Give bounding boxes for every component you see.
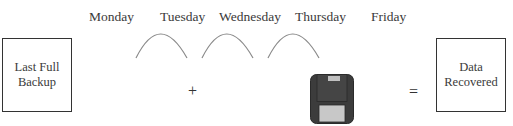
data-recovered-box: Data Recovered <box>436 38 506 112</box>
box-label-line2: Recovered <box>444 75 497 90</box>
floppy-disk-icon <box>310 74 354 124</box>
plus-operator: + <box>188 82 197 100</box>
box-label-line1: Data <box>444 60 497 75</box>
box-label-line1: Last Full <box>15 60 60 75</box>
equals-operator: = <box>409 83 418 101</box>
last-full-backup-box: Last Full Backup <box>2 38 72 112</box>
box-label-line2: Backup <box>15 75 60 90</box>
